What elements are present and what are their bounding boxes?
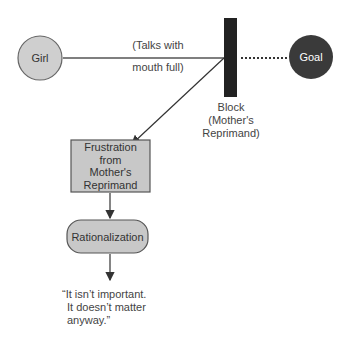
edge-label-line: mouth full): [108, 60, 208, 74]
frustration-label-line: Frustration: [71, 141, 150, 154]
rationalization-label: Rationalization: [67, 220, 148, 253]
block-label-line: Reprimand): [196, 127, 266, 140]
quote-line: anyway.”: [62, 314, 172, 327]
block-bar: [224, 18, 237, 97]
goal-label: Goal: [289, 35, 333, 79]
quote-text: “It isn’t important. It doesn’t matter a…: [62, 288, 172, 327]
block-label-line: Block: [196, 101, 266, 114]
edge-label: (Talks with mouth full): [108, 38, 208, 74]
quote-line: “It isn’t important.: [62, 288, 172, 301]
block-label-line: (Mother's: [196, 114, 266, 127]
frustration-label: Frustration from Mother's Reprimand: [71, 141, 150, 191]
frustration-label-line: Reprimand: [71, 179, 150, 192]
frustration-label-line: Mother's: [71, 166, 150, 179]
edge-label-line: (Talks with: [108, 38, 208, 52]
girl-label: Girl: [18, 36, 62, 80]
frustration-label-line: from: [71, 154, 150, 167]
quote-line: It doesn’t matter: [62, 301, 172, 314]
block-label: Block (Mother's Reprimand): [196, 101, 266, 140]
